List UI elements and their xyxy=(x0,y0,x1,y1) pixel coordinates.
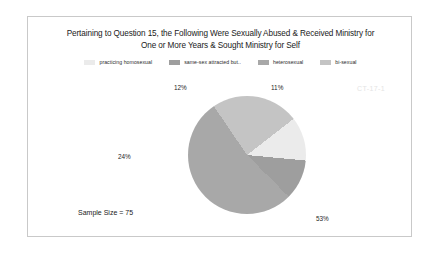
pie-chart xyxy=(188,96,306,214)
chart-title-line-2: One or More Years & Sought Ministry for … xyxy=(42,40,399,52)
plot-area: CT-17-1 12% 11% 53% 24% Sample Size = 75 xyxy=(28,72,413,238)
legend-item-heterosexual[interactable]: heterosexual xyxy=(258,59,303,65)
slice-value-label-bi-sexual: 24% xyxy=(118,153,131,160)
watermark: CT-17-1 xyxy=(357,85,385,92)
sample-size-annotation: Sample Size = 75 xyxy=(78,209,133,216)
legend-swatch-icon xyxy=(169,60,180,65)
slice-value-label-practicing-homosexual: 12% xyxy=(174,84,187,91)
slice-value-label-same-sex-attracted: 11% xyxy=(271,84,283,91)
legend-item-label: practicing homosexual xyxy=(99,59,152,65)
chart-screenshot: Pertaining to Question 15, the Following… xyxy=(0,0,440,253)
chart-title-line-1: Pertaining to Question 15, the Following… xyxy=(42,28,399,40)
legend-swatch-icon xyxy=(258,60,269,65)
legend-item-practicing-homosexual[interactable]: practicing homosexual xyxy=(84,59,152,65)
slice-value-label-heterosexual: 53% xyxy=(316,215,329,222)
legend-swatch-icon xyxy=(84,60,95,65)
legend-item-same-sex-attracted[interactable]: same-sex attracted but.. xyxy=(169,59,241,65)
chart-title: Pertaining to Question 15, the Following… xyxy=(42,28,399,51)
chart-legend: practicing homosexual same-sex attracted… xyxy=(28,59,413,65)
legend-item-bi-sexual[interactable]: bi-sexual xyxy=(320,59,356,65)
legend-item-label: same-sex attracted but.. xyxy=(184,59,241,65)
chart-card: Pertaining to Question 15, the Following… xyxy=(27,16,412,237)
legend-swatch-icon xyxy=(320,60,331,65)
legend-item-label: bi-sexual xyxy=(335,59,356,65)
legend-item-label: heterosexual xyxy=(273,59,303,65)
